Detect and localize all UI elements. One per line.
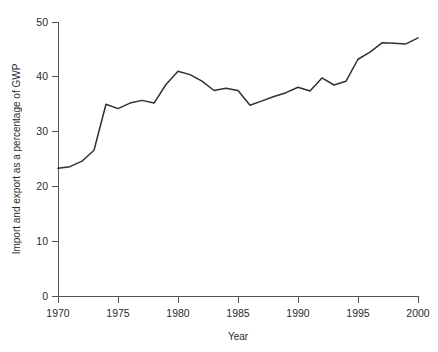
y-tick-label-0: 0: [42, 290, 48, 302]
chart-figure: 0 10 20 30 40 50 1970 1975 1980 1985 199…: [0, 0, 438, 352]
x-tick-label-1970: 1970: [46, 307, 70, 319]
chart-background: [0, 0, 438, 352]
x-tick-label-2000: 2000: [406, 307, 430, 319]
x-tick-label-1975: 1975: [106, 307, 130, 319]
line-chart: 0 10 20 30 40 50 1970 1975 1980 1985 199…: [0, 0, 438, 352]
x-tick-label-1990: 1990: [286, 307, 310, 319]
y-tick-label-20: 20: [36, 180, 48, 192]
y-tick-label-40: 40: [36, 70, 48, 82]
y-tick-label-10: 10: [36, 235, 48, 247]
y-tick-label-30: 30: [36, 125, 48, 137]
x-tick-label-1980: 1980: [166, 307, 190, 319]
y-tick-label-50: 50: [36, 16, 48, 28]
x-axis-title: Year: [228, 331, 249, 342]
y-axis-title: Import and export as a percentage of GWP: [11, 63, 22, 254]
x-tick-label-1995: 1995: [346, 307, 370, 319]
x-tick-label-1985: 1985: [226, 307, 250, 319]
